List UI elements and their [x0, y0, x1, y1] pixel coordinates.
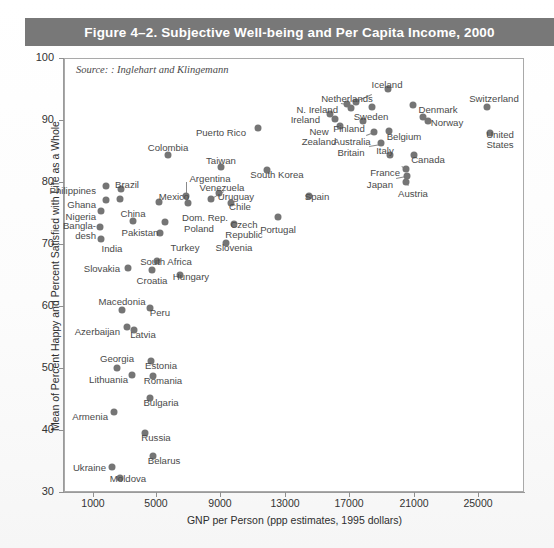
point-label-japan: Japan: [367, 180, 393, 190]
point-label-iceland: Iceland: [372, 80, 403, 90]
point-label-belgium: Belgium: [387, 132, 422, 142]
point-label-georgia: Georgia: [100, 354, 134, 364]
source-note: Source: : Inglehart and Klingemann: [76, 64, 228, 75]
point-label-switzerland: Switzerland: [469, 94, 519, 104]
point-label-china: China: [120, 209, 145, 219]
point-label-india: India: [102, 244, 123, 254]
data-point-georgia[interactable]: [114, 365, 121, 372]
data-point-france[interactable]: [403, 166, 410, 173]
data-point-slovakia[interactable]: [125, 265, 132, 272]
x-tick-label-17000: 17000: [334, 497, 363, 509]
figure-title: Figure 4–2. Subjective Well-being and Pe…: [84, 25, 494, 40]
data-point-denmark[interactable]: [410, 102, 417, 109]
x-axis-line: [64, 492, 525, 493]
point-label-turkey: Turkey: [171, 243, 200, 253]
point-label-ireland: Ireland: [291, 115, 320, 125]
point-label-canada: Canada: [411, 155, 445, 165]
figure-title-bar: Figure 4–2. Subjective Well-being and Pe…: [25, 18, 554, 46]
x-tick-label-25000: 25000: [463, 497, 492, 509]
point-label-estonia: Estonia: [145, 361, 177, 371]
point-label-france: France: [370, 168, 400, 178]
data-point-philippines[interactable]: [103, 183, 110, 190]
point-label-italy: Italy: [376, 146, 394, 156]
point-label-desh: desh: [75, 231, 96, 241]
y-tick-100: [59, 58, 64, 59]
data-point-macedonia[interactable]: [119, 307, 126, 314]
data-point-croatia[interactable]: [149, 267, 156, 274]
y-tick-label-100: 100: [28, 51, 54, 63]
figure-page: Figure 4–2. Subjective Well-being and Pe…: [0, 0, 554, 548]
point-label-spain: Spain: [305, 192, 330, 202]
point-label-croatia: Croatia: [137, 276, 168, 286]
point-label-peru: Peru: [150, 308, 170, 318]
data-point-india[interactable]: [98, 236, 105, 243]
x-tick-label-1000: 1000: [81, 497, 104, 509]
point-label-ghana: Ghana: [67, 200, 96, 210]
data-point-ghana[interactable]: [103, 197, 110, 204]
x-tick-label-5000: 5000: [144, 497, 167, 509]
point-label-lithuania: Lithuania: [89, 375, 128, 385]
point-label-zealand: Zealand: [302, 137, 337, 147]
x-tick-label-9000: 9000: [208, 497, 231, 509]
point-label-mexico: Mexico: [159, 192, 189, 202]
point-label-australia: Australia: [333, 137, 370, 147]
data-point-china[interactable]: [117, 196, 124, 203]
point-label-armenia: Armenia: [72, 412, 108, 422]
point-label-azerbaijan: Azerbaijan: [75, 327, 120, 337]
point-label-norway: Norway: [431, 118, 464, 128]
point-label-netherlands: Netherlands: [321, 94, 373, 104]
point-label-brazil: Brazil: [115, 180, 139, 190]
point-label-slovenia: Slovenia: [216, 243, 253, 253]
point-label-bulgaria: Bulgaria: [143, 398, 178, 408]
point-label-taiwan: Taiwan: [206, 156, 236, 166]
data-point-australia[interactable]: [371, 129, 378, 136]
y-tick-30: [59, 492, 64, 493]
point-label-macedonia: Macedonia: [99, 297, 146, 307]
point-label-ukraine: Ukraine: [73, 463, 106, 473]
y-axis-title: Mean of Percent Happy and Percent Satisf…: [49, 131, 61, 431]
point-label-slovakia: Slovakia: [84, 264, 120, 274]
point-label-moldova: Moldova: [110, 474, 146, 484]
data-point-lithuania[interactable]: [129, 372, 136, 379]
point-label-dom-rep: Dom. Rep.: [182, 213, 228, 223]
point-label-poland: Poland: [184, 224, 214, 234]
point-label-portugal: Portugal: [260, 225, 296, 235]
point-label-colombia: Colombia: [148, 143, 189, 153]
point-label-romania: Romania: [144, 376, 182, 386]
data-point-portugal[interactable]: [275, 214, 282, 221]
point-label-pakistan: Pakistan: [122, 228, 159, 238]
point-label-puerto-rico: Puerto Rico: [196, 128, 246, 138]
point-label-austria: Austria: [398, 189, 428, 199]
point-label-states: States: [486, 140, 513, 150]
point-label-sweden: Sweden: [354, 112, 389, 122]
point-label-chile: Chile: [229, 202, 251, 212]
x-tick-label-13000: 13000: [270, 497, 299, 509]
point-label-south-korea: South Korea: [250, 170, 303, 180]
data-point-uruguay[interactable]: [208, 196, 215, 203]
point-label-britain: Britain: [337, 148, 364, 158]
point-label-denmark: Denmark: [419, 105, 458, 115]
data-point-austria[interactable]: [403, 179, 410, 186]
data-point-sweden[interactable]: [369, 104, 376, 111]
data-point-ireland-b[interactable]: [332, 116, 339, 123]
point-label-russia: Russia: [141, 433, 170, 443]
point-label-finland: Finland: [333, 124, 364, 134]
point-label-belarus: Belarus: [148, 456, 181, 466]
data-point-switzerland[interactable]: [484, 104, 491, 111]
point-label-latvia: Latvia: [130, 330, 156, 340]
data-point-poland[interactable]: [162, 219, 169, 226]
data-point-ukraine[interactable]: [109, 464, 116, 471]
data-point-bangladesh[interactable]: [97, 224, 104, 231]
y-axis-line: [63, 58, 64, 492]
point-label-hungary: Hungary: [173, 272, 209, 282]
point-label-republic: Republic: [225, 230, 262, 240]
data-point-nigeria[interactable]: [98, 208, 105, 215]
y-tick-label-30: 30: [28, 485, 54, 497]
data-point-armenia[interactable]: [111, 409, 118, 416]
data-point-puerto-rico[interactable]: [255, 125, 262, 132]
x-tick-label-21000: 21000: [399, 497, 428, 509]
point-label-south-africa: South Africa: [140, 257, 192, 267]
x-axis-title: GNP per Person (ppp estimates, 1995 doll…: [64, 514, 525, 526]
